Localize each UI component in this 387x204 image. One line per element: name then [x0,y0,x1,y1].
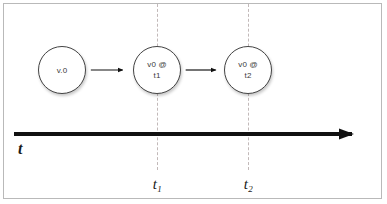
diagram-canvas: v.0 v0 @ t1 v0 @ t2 t t1 t2 [0,0,387,204]
edge-v0-to-v0t1 [87,65,133,75]
node-v0-t2-line2: t2 [244,70,251,81]
tick-label-t2-base: t [244,176,248,192]
tick-label-t2: t2 [244,176,253,193]
axis-label-t: t [18,140,22,158]
node-v0-t1-line2: t1 [153,70,160,81]
tick-label-t1-sub: 1 [157,184,162,194]
tick-label-t1-base: t [153,176,157,192]
tick-label-t2-sub: 2 [248,184,253,194]
node-v0[interactable]: v.0 [38,46,86,94]
time-axis-arrow [14,126,369,144]
node-v0-t1[interactable]: v0 @ t1 [133,46,181,94]
diagram-frame [3,3,382,199]
node-v0-t2-line1: v0 @ [238,59,258,70]
tick-label-t1: t1 [153,176,162,193]
node-v0-line1: v.0 [57,65,68,76]
node-v0-t2[interactable]: v0 @ t2 [224,46,272,94]
edge-v0t1-to-v0t2 [182,65,226,75]
node-v0-t1-line1: v0 @ [147,59,167,70]
